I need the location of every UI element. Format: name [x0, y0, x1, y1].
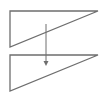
- diagram: [0, 0, 102, 93]
